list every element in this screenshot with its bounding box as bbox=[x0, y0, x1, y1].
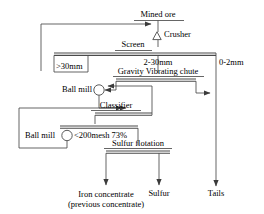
product-label-iron-concentrate-note: (previous concentrate) bbox=[68, 199, 144, 209]
line-chute-to-tails bbox=[196, 81, 210, 93]
stream-label-oversize: >30mm bbox=[56, 62, 83, 72]
node-label-classifier: Classifier bbox=[100, 101, 133, 111]
node-label-ball-mill-upper: Ball mill bbox=[62, 85, 92, 95]
ball-mill-lower-circle bbox=[62, 130, 72, 140]
stream-label-fines: 0-2mm bbox=[219, 58, 244, 68]
flowsheet-diagram: Mined ore Crusher Screen >30mm 2-30mm 0-… bbox=[0, 0, 264, 214]
node-label-gravity-vibrating-chute: Gravity Vibrating chute bbox=[118, 67, 199, 77]
product-label-sulfur: Sulfur bbox=[148, 189, 169, 199]
crusher-triangle-icon bbox=[152, 31, 162, 41]
node-label-screen: Screen bbox=[121, 40, 144, 50]
node-label-crusher: Crusher bbox=[164, 30, 191, 40]
ball-mill-upper-circle bbox=[94, 85, 104, 95]
product-label-iron-concentrate: Iron concentrate bbox=[78, 189, 133, 199]
node-label-sulfur-flotation: Sulfur flotation bbox=[112, 139, 164, 149]
product-label-tails: Tails bbox=[208, 189, 224, 199]
node-label-ball-mill-lower: Ball mill bbox=[25, 131, 55, 141]
node-label-mined-ore: Mined ore bbox=[140, 10, 175, 20]
